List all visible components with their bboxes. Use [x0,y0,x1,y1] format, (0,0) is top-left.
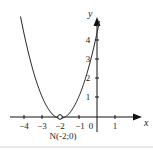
x-tick-label: 1 [113,121,118,131]
graph-canvas: −4 −3 −2 −1 0 1 1 2 3 4 x y N(-2;0) [0,0,153,150]
y-tick-label: 1 [86,92,91,102]
origin-label: 0 [89,121,94,131]
parabola-curve [21,17,100,119]
y-tick-label: 2 [86,73,91,83]
vertex-label: N(-2;0) [50,131,77,141]
x-tick-label: −3 [37,121,47,131]
y-axis-label: y [87,8,93,19]
x-tick-label: −1 [75,121,85,131]
x-tick-label: −4 [19,121,29,131]
x-axis-arrow-icon [133,114,142,121]
y-tick-label: 3 [86,54,91,64]
vertex-marker [58,115,63,120]
x-axis-label: x [143,117,149,128]
y-tick-label: 4 [86,35,91,45]
x-tick-label: −2 [55,121,65,131]
